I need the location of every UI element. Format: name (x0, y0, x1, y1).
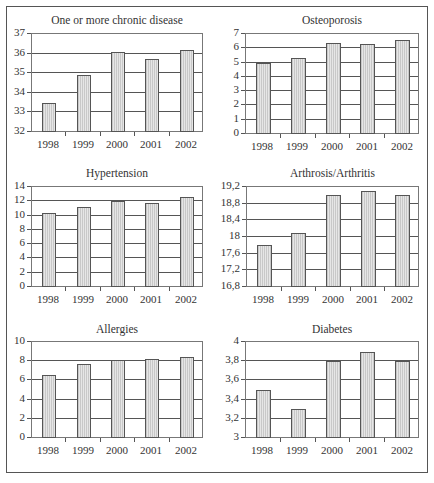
x-tick-label: 2001 (349, 444, 385, 456)
y-tick-mark (27, 243, 31, 244)
y-tick-label: 2 (211, 97, 239, 109)
y-tick-mark (241, 399, 245, 400)
bar-2002 (395, 40, 410, 134)
bar-2001 (360, 44, 375, 134)
y-tick-mark (242, 286, 246, 287)
plot-area (31, 186, 203, 287)
x-tick-label: 1999 (280, 293, 316, 305)
x-tick-mark (134, 287, 135, 291)
x-tick-mark (65, 132, 66, 136)
x-tick-mark (169, 438, 170, 442)
y-tick-label: 14 (0, 179, 25, 191)
bar-1999 (291, 233, 306, 287)
y-tick-mark (241, 119, 245, 120)
bar-1999 (77, 207, 91, 287)
bar-2001 (361, 191, 376, 287)
x-tick-mark (280, 134, 281, 138)
y-tick-mark (241, 379, 245, 380)
bar-1998 (42, 103, 56, 132)
bar-2000 (326, 361, 341, 438)
x-tick-label: 2001 (133, 444, 169, 456)
y-tick-mark (241, 33, 245, 34)
x-tick-mark (169, 132, 170, 136)
chart-title: One or more chronic disease (31, 14, 203, 26)
y-tick-mark (27, 418, 31, 419)
bar-2002 (180, 357, 194, 438)
x-tick-label: 2001 (133, 138, 169, 150)
x-tick-mark (349, 438, 350, 442)
y-tick-label: 8 (0, 353, 25, 365)
y-tick-mark (241, 341, 245, 342)
x-tick-mark (315, 134, 316, 138)
bar-2000 (326, 43, 341, 134)
y-tick-label: 3 (211, 83, 239, 95)
x-tick-label: 2001 (349, 140, 385, 152)
y-tick-label: 0 (0, 279, 25, 291)
x-tick-mark (315, 287, 316, 291)
y-tick-mark (27, 92, 31, 93)
x-tick-label: 1999 (279, 140, 315, 152)
y-tick-mark (241, 47, 245, 48)
y-tick-mark (242, 203, 246, 204)
y-tick-mark (241, 360, 245, 361)
y-tick-mark (27, 360, 31, 361)
y-tick-label: 32 (0, 124, 25, 136)
y-tick-label: 6 (0, 236, 25, 248)
y-tick-label: 36 (0, 46, 25, 58)
y-tick-mark (241, 437, 245, 438)
bar-2000 (111, 52, 125, 132)
y-tick-mark (27, 437, 31, 438)
x-tick-mark (134, 438, 135, 442)
bar-1998 (256, 390, 271, 438)
bar-2001 (145, 203, 159, 287)
chart-title: Hypertension (31, 167, 203, 179)
x-tick-label: 1998 (244, 140, 280, 152)
x-tick-label: 1998 (30, 444, 66, 456)
y-tick-mark (241, 133, 245, 134)
bar-2001 (145, 359, 159, 438)
x-tick-label: 2000 (99, 138, 135, 150)
y-tick-label: 4 (211, 334, 239, 346)
x-tick-mark (349, 134, 350, 138)
x-tick-label: 1998 (30, 138, 66, 150)
y-tick-mark (241, 90, 245, 91)
bar-2002 (395, 195, 410, 287)
x-tick-label: 2002 (384, 444, 420, 456)
bar-2002 (395, 361, 410, 438)
x-tick-label: 2000 (99, 444, 135, 456)
x-tick-label: 1999 (65, 293, 101, 305)
chart-title: Allergies (31, 323, 203, 335)
y-tick-label: 4 (0, 392, 25, 404)
bar-2002 (180, 50, 194, 132)
y-tick-label: 6 (211, 40, 239, 52)
x-tick-mark (281, 287, 282, 291)
y-tick-label: 3 (211, 430, 239, 442)
x-tick-mark (100, 132, 101, 136)
y-tick-mark (27, 399, 31, 400)
x-tick-label: 2000 (315, 293, 351, 305)
y-tick-label: 16,8 (212, 279, 240, 291)
plot-area (245, 33, 419, 134)
y-tick-mark (242, 269, 246, 270)
y-tick-label: 4 (211, 69, 239, 81)
y-tick-mark (27, 272, 31, 273)
x-tick-label: 2000 (314, 444, 350, 456)
y-tick-label: 35 (0, 65, 25, 77)
y-tick-mark (27, 186, 31, 187)
plot-area (31, 33, 203, 132)
y-tick-mark (27, 341, 31, 342)
y-tick-label: 2 (0, 411, 25, 423)
x-tick-mark (350, 287, 351, 291)
y-tick-label: 3,8 (211, 353, 239, 365)
y-tick-label: 17,6 (212, 246, 240, 258)
x-tick-label: 1998 (30, 293, 66, 305)
plot-area (246, 186, 419, 287)
y-tick-label: 2 (0, 265, 25, 277)
chart-title: Diabetes (245, 323, 419, 335)
chart-title: Arthrosis/Arthritis (246, 167, 419, 179)
bar-2001 (360, 352, 375, 438)
y-tick-mark (241, 76, 245, 77)
x-tick-label: 2002 (168, 444, 204, 456)
bar-2000 (326, 195, 341, 287)
x-tick-label: 2001 (133, 293, 169, 305)
